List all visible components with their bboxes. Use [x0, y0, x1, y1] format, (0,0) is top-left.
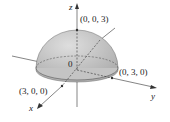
x-axis-label: x: [29, 104, 33, 113]
point-x: [61, 85, 63, 87]
point-label-top: (0, 0, 3): [80, 15, 109, 24]
point-label-y: (0, 3, 0): [119, 68, 148, 77]
y-axis-label: y: [151, 92, 155, 101]
y-arrow-icon: [150, 85, 157, 89]
point-y: [111, 77, 113, 79]
z-axis-label: z: [69, 3, 73, 12]
point-label-x: (3, 0, 0): [19, 87, 48, 96]
z-arrow-icon: [75, 3, 79, 9]
hemisphere-diagram: z (0, 0, 3) 0 (0, 3, 0) (3, 0, 0) x y: [0, 0, 170, 122]
point-top: [76, 29, 78, 31]
y-axis: [112, 78, 153, 87]
origin-label: 0: [68, 60, 73, 69]
